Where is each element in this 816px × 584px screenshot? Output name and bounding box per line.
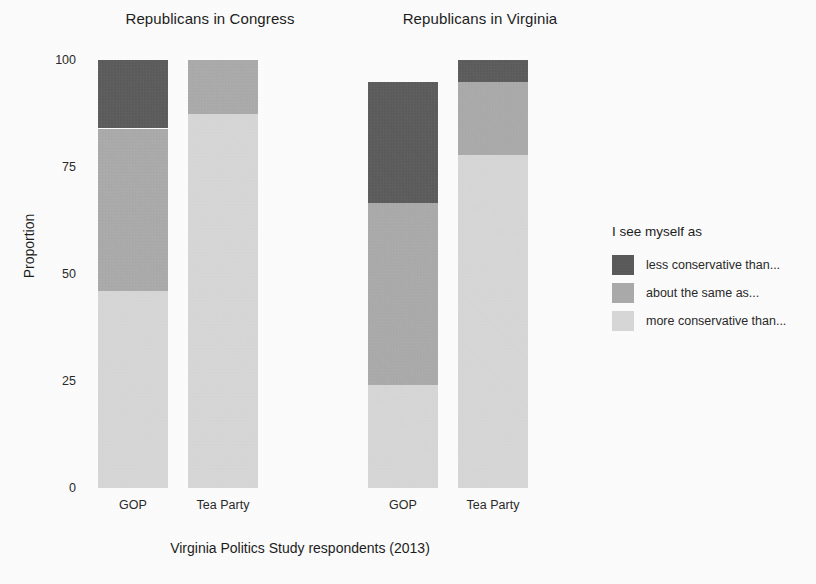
bar-segment-about-the-same bbox=[98, 129, 168, 292]
bar-segment-less-conservative bbox=[98, 60, 168, 128]
plot-panel-congress bbox=[96, 60, 284, 488]
bar-segment-about-the-same bbox=[458, 82, 528, 155]
legend-item-less-conservative[interactable]: less conservative than... bbox=[612, 251, 808, 279]
bar-segment-about-the-same bbox=[188, 60, 258, 114]
x-tick-label-congress-tea-party: Tea Party bbox=[163, 498, 283, 512]
y-axis-title: Proportion bbox=[21, 176, 37, 316]
panel-title-congress: Republicans in Congress bbox=[60, 10, 360, 27]
stacked-bar-chart: Republicans in Congress Republicans in V… bbox=[0, 0, 816, 584]
y-tick-label-50: 50 bbox=[30, 267, 76, 281]
legend-title: I see myself as bbox=[612, 224, 808, 239]
legend-swatch-icon bbox=[612, 283, 634, 303]
legend-item-label: more conservative than... bbox=[646, 314, 786, 328]
legend-item-label: less conservative than... bbox=[646, 258, 780, 272]
legend-item-more-conservative[interactable]: more conservative than... bbox=[612, 307, 808, 335]
bar-segment-more-conservative bbox=[458, 155, 528, 488]
bar-segment-about-the-same bbox=[368, 203, 438, 385]
bar-segment-less-conservative bbox=[368, 82, 438, 203]
x-tick-label-virginia-tea-party: Tea Party bbox=[433, 498, 553, 512]
bar-group-virginia-gop bbox=[368, 60, 438, 488]
legend-swatch-icon bbox=[612, 311, 634, 331]
x-axis-title: Virginia Politics Study respondents (201… bbox=[0, 540, 600, 556]
legend-swatch-icon bbox=[612, 255, 634, 275]
legend: I see myself as less conservative than..… bbox=[612, 224, 808, 335]
bar-segment-less-conservative bbox=[458, 60, 528, 82]
bar-group-congress-tea-party bbox=[188, 60, 258, 488]
panel-title-virginia: Republicans in Virginia bbox=[330, 10, 630, 27]
y-tick-label-75: 75 bbox=[30, 160, 76, 174]
y-tick-label-25: 25 bbox=[30, 374, 76, 388]
y-tick-label-100: 100 bbox=[30, 53, 76, 67]
y-tick-label-0: 0 bbox=[30, 481, 76, 495]
bar-segment-more-conservative bbox=[98, 291, 168, 488]
bar-segment-more-conservative bbox=[188, 114, 258, 489]
bar-group-virginia-tea-party bbox=[458, 60, 528, 488]
bar-group-congress-gop bbox=[98, 60, 168, 488]
legend-item-about-the-same[interactable]: about the same as... bbox=[612, 279, 808, 307]
legend-item-label: about the same as... bbox=[646, 286, 759, 300]
bar-segment-more-conservative bbox=[368, 385, 438, 488]
plot-panel-virginia bbox=[366, 60, 554, 488]
